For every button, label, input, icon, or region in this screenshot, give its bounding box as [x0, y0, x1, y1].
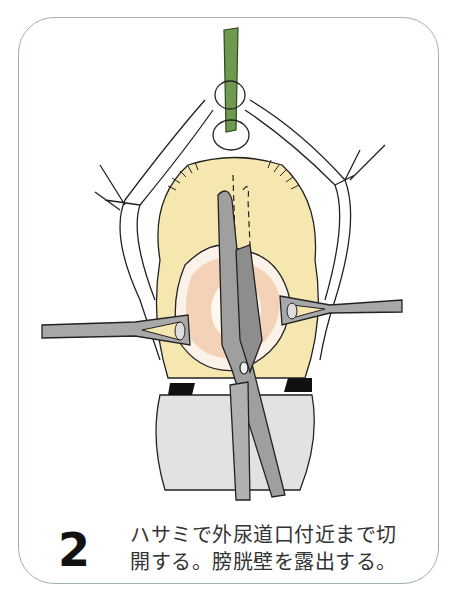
surgical-illustration	[0, 0, 455, 520]
right-retractor-clamp	[280, 296, 402, 325]
left-retractor-clamp	[42, 315, 190, 345]
caption-line-1: ハサミで外尿道口付近まで切	[130, 522, 430, 549]
catheter	[213, 28, 249, 150]
step-caption: ハサミで外尿道口付近まで切 開する。膀胱壁を露出する。	[130, 522, 430, 576]
step-number: 2	[58, 527, 90, 573]
caption-line-2: 開する。膀胱壁を露出する。	[130, 549, 430, 576]
